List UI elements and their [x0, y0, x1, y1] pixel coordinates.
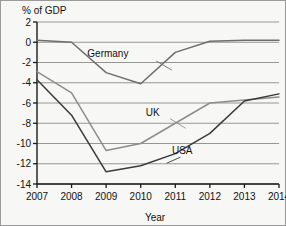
x-tick-label-2014: 2014 — [268, 191, 286, 202]
y-tick-label--12: -12 — [17, 158, 32, 169]
y-tick-label-0: 0 — [25, 37, 31, 48]
x-tick-label-2010: 2010 — [130, 191, 153, 202]
x-tick-label-2008: 2008 — [60, 191, 83, 202]
x-axis-title: Year — [145, 212, 166, 223]
y-tick-label--14: -14 — [17, 179, 32, 190]
gdp-line-chart: 20-2-4-6-8-10-12-14 20072008200920102011… — [0, 0, 286, 226]
x-tick-label-2012: 2012 — [199, 191, 222, 202]
y-tick-label--2: -2 — [22, 57, 31, 68]
y-tick-label--6: -6 — [22, 98, 31, 109]
chart-container: 20-2-4-6-8-10-12-14 20072008200920102011… — [0, 0, 286, 226]
x-tick-label-2009: 2009 — [95, 191, 118, 202]
y-tick-label--4: -4 — [22, 77, 31, 88]
x-tick-label-2007: 2007 — [26, 191, 49, 202]
x-tick-label-2011: 2011 — [165, 191, 187, 202]
x-tick-label-2013: 2013 — [233, 191, 256, 202]
y-axis-unit-label: % of GDP — [22, 5, 67, 16]
series-label-usa: USA — [172, 145, 193, 156]
series-label-germany: Germany — [87, 48, 128, 59]
y-tick-label--8: -8 — [22, 118, 31, 129]
series-label-uk: UK — [146, 107, 160, 118]
y-tick-label--10: -10 — [17, 138, 32, 149]
y-tick-label-2: 2 — [25, 17, 31, 28]
